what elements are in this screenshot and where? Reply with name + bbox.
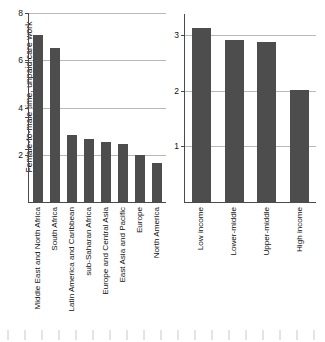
y-tick-label-left-2: 2 [18,151,23,160]
y-tick-label-left-8: 8 [18,9,23,18]
chart-panel-left: Female-to-male time, unpaid care work 24… [0,0,170,342]
x-axis-category-label: Latin America and Caribbean [68,207,76,311]
x-axis-category-label: North America [153,207,161,258]
category-slot: sub-Saharan Africa [80,207,97,327]
bar[interactable] [67,135,77,202]
category-slot: South Africa [46,207,63,327]
bar-slot [63,14,80,202]
bar[interactable] [101,142,111,202]
y-tick-label-right-1: 1 [174,142,179,151]
y-tick-label-left-4: 4 [18,103,23,112]
x-axis-line-left [28,202,166,203]
x-axis-category-label: Europe [136,207,144,233]
figure-two-panel-bar-charts: Female-to-male time, unpaid care work 24… [0,0,325,342]
x-axis-category-label: Upper-middle [263,207,271,256]
plot-area-left: 2468 [28,14,166,203]
bar-series-left [29,14,166,202]
bar-slot [132,14,149,202]
bar-slot [46,14,63,202]
bar-slot [185,14,218,202]
bar-slot [80,14,97,202]
bar-slot [218,14,251,202]
x-axis-category-label: Low income [197,207,205,250]
category-slot: Lower-middle [218,207,251,327]
category-slot: Europe and Central Asia [98,207,115,327]
bar-slot [98,14,115,202]
x-axis-line-right [184,202,316,203]
x-axis-category-label: Europe and Central Asia [102,207,110,295]
category-slot: Low income [185,207,218,327]
bar[interactable] [50,48,60,202]
category-slot: High income [283,207,316,327]
bar[interactable] [225,40,244,202]
bar-series-right [185,14,316,202]
page-scan-artifact [0,330,325,340]
bar[interactable] [257,42,276,202]
bar[interactable] [290,90,309,202]
x-axis-category-labels-left: Middle East and North AfricaSouth Africa… [29,207,166,327]
bar-slot [115,14,132,202]
x-axis-category-label: Middle East and North Africa [34,207,42,310]
y-tick-label-right-3: 3 [174,31,179,40]
category-slot: Middle East and North Africa [29,207,46,327]
y-tick-label-right-2: 2 [174,87,179,96]
bar[interactable] [152,163,162,202]
bar[interactable] [118,144,128,202]
x-axis-category-labels-right: Low incomeLower-middleUpper-middleHigh i… [185,207,316,327]
category-slot: East Asia and Pacific [115,207,132,327]
category-slot: Europe [132,207,149,327]
bar-slot [251,14,284,202]
x-axis-category-label: High income [296,207,304,252]
x-axis-category-label: South Africa [51,207,59,251]
bar-slot [29,14,46,202]
category-slot: Upper-middle [251,207,284,327]
x-axis-category-label: Lower-middle [230,207,238,256]
bar[interactable] [135,155,145,202]
category-slot: Latin America and Caribbean [63,207,80,327]
bar[interactable] [84,139,94,202]
x-axis-category-label: sub-Saharan Africa [85,207,93,276]
bar-slot [149,14,166,202]
bar[interactable] [33,35,43,202]
chart-panel-right: 123 Low incomeLower-middleUpper-middleHi… [170,0,325,342]
x-axis-category-label: East Asia and Pacific [119,207,127,283]
bar[interactable] [192,28,211,202]
bar-slot [283,14,316,202]
y-tick-label-left-6: 6 [18,56,23,65]
category-slot: North America [149,207,166,327]
plot-area-right: 123 [184,14,316,203]
